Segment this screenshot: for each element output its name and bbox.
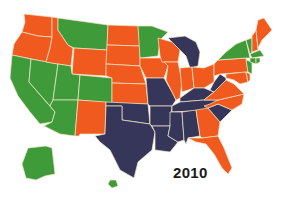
- state-SD[interactable]: [106, 45, 140, 66]
- state-AR[interactable]: [150, 106, 172, 126]
- state-NY[interactable]: [218, 40, 250, 60]
- state-ME[interactable]: [256, 18, 272, 48]
- state-OH[interactable]: [192, 64, 214, 88]
- state-IN[interactable]: [180, 67, 194, 92]
- state-ND[interactable]: [107, 25, 140, 46]
- us-states-map: [0, 0, 285, 210]
- state-CO[interactable]: [78, 75, 112, 103]
- year-label: 2010: [173, 164, 208, 181]
- state-MS[interactable]: [168, 112, 184, 142]
- state-AK[interactable]: [22, 146, 55, 180]
- state-KS[interactable]: [112, 83, 148, 104]
- state-NE[interactable]: [106, 64, 146, 84]
- state-NM[interactable]: [75, 100, 106, 136]
- state-HI[interactable]: [108, 180, 118, 188]
- state-RI[interactable]: [256, 58, 260, 64]
- state-WY[interactable]: [72, 48, 107, 76]
